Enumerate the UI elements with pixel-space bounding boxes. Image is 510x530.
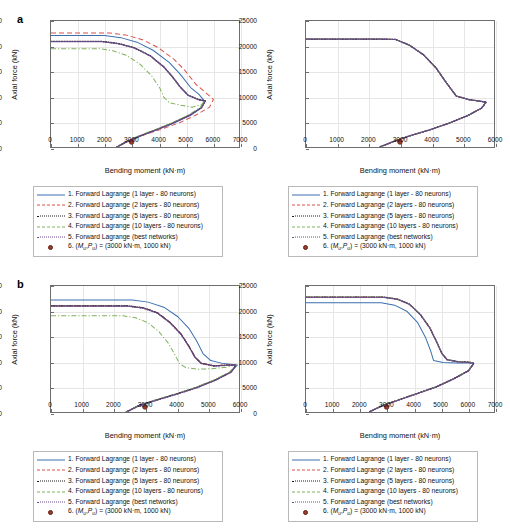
- legend-item-label: 2. Forward Lagrange (2 layers - 80 neuro…: [323, 202, 454, 209]
- legend-item-label: 3. Forward Lagrange (5 layers - 80 neuro…: [68, 478, 199, 485]
- y-axis-label: Axial force (kN): [265, 25, 274, 125]
- legend-line-sample: [37, 226, 65, 227]
- legend-item[interactable]: 6. (Mu,Pu) = (3000 kN·m, 1000 kN): [292, 242, 474, 253]
- legend-item[interactable]: 4. Forward Lagrange (10 layers - 80 neur…: [37, 486, 219, 497]
- legend-line-sample: [37, 470, 65, 471]
- panel-a-right: Axial force (kN)Bending moment (kN·m)010…: [255, 0, 510, 265]
- axes-frame: [50, 20, 240, 148]
- legend-item-label: 3. Forward Lagrange (5 layers - 80 neuro…: [323, 213, 454, 220]
- legend-item-label: 5. Forward Lagrange (best networks): [323, 499, 433, 506]
- gridline-vertical: [496, 21, 497, 147]
- line-dashdot-icon: [292, 222, 320, 232]
- line-dotted-icon: [37, 211, 65, 221]
- legend-line-sample: [292, 491, 320, 492]
- y-tick-label: 5000: [0, 119, 2, 126]
- legend-line-sample: [37, 194, 65, 195]
- legend-item-label: 3. Forward Lagrange (5 layers - 80 neuro…: [323, 478, 454, 485]
- legend-item-label: 6. (Mu,Pu) = (3000 kN·m, 1000 kN): [68, 508, 171, 517]
- y-tick-label: 10000: [0, 358, 2, 365]
- series-line: [51, 42, 205, 147]
- panel-b-left: bAxial force (kN)Bending moment (kN·m)01…: [0, 265, 255, 530]
- y-axis-label: Axial force (kN): [265, 290, 274, 390]
- legend-item[interactable]: 4. Forward Lagrange (10 layers - 80 neur…: [292, 486, 474, 497]
- y-tick-label: 0: [0, 145, 2, 152]
- line-dashdot-icon: [292, 487, 320, 497]
- legend: 1. Forward Lagrange (1 layer - 80 neuron…: [33, 451, 223, 522]
- y-tick-mark: [306, 149, 309, 150]
- legend-item[interactable]: 3. Forward Lagrange (5 layers - 80 neuro…: [292, 476, 474, 487]
- legend-item-label: 1. Forward Lagrange (1 layer - 80 neuron…: [68, 456, 196, 463]
- y-tick-label: 0: [0, 410, 2, 417]
- legend-item[interactable]: 5. Forward Lagrange (best networks): [292, 497, 474, 508]
- filled-circle-marker-icon: [48, 245, 53, 250]
- filled-circle-marker-icon: [292, 508, 320, 518]
- line-dotted-icon: [37, 476, 65, 486]
- x-tick-mark: [496, 144, 497, 147]
- axes-frame: [305, 20, 495, 148]
- legend-item-label: 1. Forward Lagrange (1 layer - 80 neuron…: [323, 191, 451, 198]
- legend-item[interactable]: 1. Forward Lagrange (1 layer - 80 neuron…: [37, 190, 219, 201]
- legend-item[interactable]: 6. (Mu,Pu) = (3000 kN·m, 1000 kN): [37, 507, 219, 518]
- legend-item[interactable]: 6. (Mu,Pu) = (3000 kN·m, 1000 kN): [292, 507, 474, 518]
- legend-item-label: 2. Forward Lagrange (2 layers - 80 neuro…: [68, 202, 199, 209]
- line-dotted-icon: [37, 497, 65, 507]
- legend-item[interactable]: 2. Forward Lagrange (2 layers - 80 neuro…: [292, 200, 474, 211]
- legend-item-label: 4. Forward Lagrange (10 layers - 80 neur…: [323, 223, 458, 230]
- legend-item[interactable]: 2. Forward Lagrange (2 layers - 80 neuro…: [292, 465, 474, 476]
- legend-item-label: 2. Forward Lagrange (2 layers - 80 neuro…: [323, 467, 454, 474]
- line-dashdot-icon: [37, 222, 65, 232]
- legend-item[interactable]: 1. Forward Lagrange (1 layer - 80 neuron…: [292, 455, 474, 466]
- axes-frame: [305, 285, 495, 413]
- legend-item-label: 6. (Mu,Pu) = (3000 kN·m, 1000 kN): [323, 243, 426, 252]
- series-line: [306, 39, 486, 147]
- legend-line-sample: [37, 502, 65, 503]
- line-solid-icon: [37, 455, 65, 465]
- legend-item[interactable]: 4. Forward Lagrange (10 layers - 80 neur…: [37, 221, 219, 232]
- y-tick-label: 25000: [217, 282, 257, 289]
- y-axis-label: Axial force (kN): [10, 25, 19, 125]
- legend-item[interactable]: 6. (Mu,Pu) = (3000 kN·m, 1000 kN): [37, 242, 219, 253]
- legend-line-sample: [292, 205, 320, 206]
- legend-item-label: 4. Forward Lagrange (10 layers - 80 neur…: [323, 488, 458, 495]
- filled-circle-marker-icon: [292, 243, 320, 253]
- y-tick-label: 0: [217, 145, 257, 152]
- line-dotted-icon: [292, 211, 320, 221]
- y-tick-label: 20000: [217, 307, 257, 314]
- y-tick-label: 15000: [0, 68, 2, 75]
- y-tick-label: 25000: [217, 17, 257, 24]
- gridline-vertical: [241, 21, 242, 147]
- series-line: [306, 39, 486, 147]
- legend-item[interactable]: 3. Forward Lagrange (5 layers - 80 neuro…: [37, 211, 219, 222]
- y-tick-label: 25000: [0, 282, 2, 289]
- legend-line-sample: [292, 459, 320, 460]
- y-tick-label: 20000: [0, 307, 2, 314]
- legend-item[interactable]: 5. Forward Lagrange (best networks): [37, 497, 219, 508]
- series-line: [306, 297, 474, 412]
- legend-line-sample: [37, 205, 65, 206]
- legend-item[interactable]: 2. Forward Lagrange (2 layers - 80 neuro…: [37, 465, 219, 476]
- legend-item[interactable]: 3. Forward Lagrange (5 layers - 80 neuro…: [37, 476, 219, 487]
- y-tick-label: 0: [217, 410, 257, 417]
- series-line: [306, 297, 474, 412]
- y-tick-mark: [51, 414, 54, 415]
- legend-item[interactable]: 4. Forward Lagrange (10 layers - 80 neur…: [292, 221, 474, 232]
- series-layer: [51, 286, 239, 412]
- legend-line-sample: [37, 459, 65, 460]
- legend-line-sample: [292, 226, 320, 227]
- legend: 1. Forward Lagrange (1 layer - 80 neuron…: [33, 186, 223, 257]
- legend-item[interactable]: 5. Forward Lagrange (best networks): [37, 232, 219, 243]
- legend-item[interactable]: 1. Forward Lagrange (1 layer - 80 neuron…: [292, 190, 474, 201]
- series-line: [51, 41, 205, 147]
- series-line: [51, 316, 236, 412]
- legend-item[interactable]: 1. Forward Lagrange (1 layer - 80 neuron…: [37, 455, 219, 466]
- panel-b-right: Axial force (kN)Bending moment (kN·m)010…: [255, 265, 510, 530]
- legend-line-sample: [292, 237, 320, 238]
- legend-item[interactable]: 5. Forward Lagrange (best networks): [292, 232, 474, 243]
- legend-item[interactable]: 3. Forward Lagrange (5 layers - 80 neuro…: [292, 211, 474, 222]
- line-dashdot-icon: [37, 487, 65, 497]
- plot-area: Axial force (kN)Bending moment (kN·m)010…: [255, 271, 510, 446]
- series-line: [306, 39, 486, 147]
- y-tick-label: 20000: [217, 42, 257, 49]
- series-layer: [306, 286, 494, 412]
- legend-item[interactable]: 2. Forward Lagrange (2 layers - 80 neuro…: [37, 200, 219, 211]
